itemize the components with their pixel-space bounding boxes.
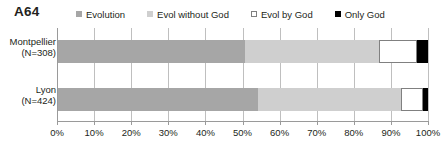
plot-area xyxy=(57,28,428,122)
x-tick-mark xyxy=(354,122,355,125)
bar-segment xyxy=(57,40,245,63)
x-tick-label: 90% xyxy=(371,127,411,138)
chart-legend: EvolutionEvol without GodEvol by GodOnly… xyxy=(76,7,385,21)
legend-swatch-icon xyxy=(147,11,153,17)
bar-stack xyxy=(57,40,428,63)
category-name: Lyon xyxy=(0,84,56,95)
legend-swatch-icon xyxy=(335,11,341,17)
x-tick-mark xyxy=(317,122,318,125)
x-tick-label: 40% xyxy=(185,127,225,138)
x-tick-mark xyxy=(94,122,95,125)
x-tick-mark xyxy=(428,122,429,125)
legend-swatch-icon xyxy=(251,11,257,17)
bar-segment xyxy=(401,88,423,111)
legend-item: Evol by God xyxy=(251,9,313,20)
x-tick-label: 100% xyxy=(408,127,442,138)
x-tick-mark xyxy=(280,122,281,125)
x-tick-label: 70% xyxy=(297,127,337,138)
legend-item: Evolution xyxy=(76,9,125,20)
category-label: Montpellier(N=308) xyxy=(0,36,56,58)
y-axis-line xyxy=(57,28,58,122)
x-tick-label: 80% xyxy=(334,127,374,138)
chart-container: A64 EvolutionEvol without GodEvol by God… xyxy=(0,0,442,145)
bar-stack xyxy=(57,88,428,111)
gridline xyxy=(428,28,429,122)
legend-swatch-icon xyxy=(76,11,82,17)
x-tick-mark xyxy=(205,122,206,125)
chart-title: A64 xyxy=(14,4,39,20)
x-tick-mark xyxy=(243,122,244,125)
bar-segment xyxy=(423,88,428,111)
bar-segment xyxy=(57,88,258,111)
x-tick-label: 20% xyxy=(111,127,151,138)
legend-item: Evol without God xyxy=(147,9,229,20)
category-count: (N=424) xyxy=(0,95,56,106)
bar-segment xyxy=(258,88,401,111)
bar-segment xyxy=(245,40,379,63)
x-tick-label: 60% xyxy=(260,127,300,138)
x-tick-label: 10% xyxy=(74,127,114,138)
x-tick-mark xyxy=(168,122,169,125)
x-tick-label: 30% xyxy=(148,127,188,138)
legend-label: Evolution xyxy=(86,9,125,20)
bar-segment xyxy=(417,40,428,63)
bar-segment xyxy=(379,40,417,63)
category-label: Lyon(N=424) xyxy=(0,84,56,106)
legend-item: Only God xyxy=(335,9,385,20)
legend-label: Evol without God xyxy=(157,9,229,20)
category-count: (N=308) xyxy=(0,47,56,58)
legend-label: Evol by God xyxy=(261,9,313,20)
x-tick-mark xyxy=(57,122,58,125)
x-tick-label: 50% xyxy=(223,127,263,138)
x-tick-mark xyxy=(131,122,132,125)
category-name: Montpellier xyxy=(0,36,56,47)
x-tick-label: 0% xyxy=(37,127,77,138)
x-tick-mark xyxy=(391,122,392,125)
legend-label: Only God xyxy=(345,9,385,20)
